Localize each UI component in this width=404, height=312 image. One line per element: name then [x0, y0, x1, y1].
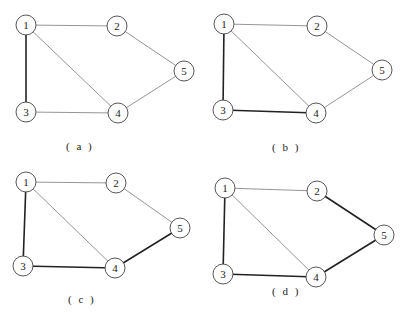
node-5: 5: [170, 218, 190, 238]
node-4: 4: [105, 258, 125, 278]
svg-text:5: 5: [379, 64, 385, 76]
svg-text:1: 1: [23, 19, 29, 31]
panel-a: 12345 ( a ): [0, 0, 202, 156]
edge-4-5-selected: [115, 228, 180, 268]
svg-text:2: 2: [314, 185, 320, 197]
node-2: 2: [307, 16, 327, 36]
node-2: 2: [106, 173, 126, 193]
graph-b: 12345: [202, 0, 404, 156]
svg-text:4: 4: [112, 262, 118, 274]
node-1: 1: [215, 178, 235, 198]
node-5: 5: [374, 225, 394, 245]
edge-1-4: [225, 188, 316, 277]
panel-d: 12345 ( d ): [202, 156, 404, 312]
panel-b: 12345 ( b ): [202, 0, 404, 156]
node-5: 5: [174, 61, 194, 81]
svg-text:3: 3: [20, 260, 26, 272]
caption-d: ( d ): [272, 285, 300, 297]
edge-2-5: [317, 26, 382, 70]
edge-1-4: [26, 182, 115, 268]
edge-1-2: [26, 25, 117, 26]
node-3: 3: [213, 100, 233, 120]
node-3: 3: [213, 264, 233, 284]
svg-text:4: 4: [313, 271, 319, 283]
svg-text:4: 4: [313, 107, 319, 119]
caption-a: ( a ): [66, 140, 94, 152]
edge-1-4: [26, 25, 118, 113]
edge-1-4: [224, 24, 316, 113]
graph-c: 12345: [0, 156, 202, 312]
panel-c: 12345 ( c ): [0, 156, 202, 312]
graph-a: 12345: [0, 0, 202, 156]
edge-1-3-selected: [223, 24, 224, 110]
edge-1-2: [26, 182, 116, 183]
node-5: 5: [372, 60, 392, 80]
svg-text:3: 3: [23, 106, 29, 118]
svg-text:5: 5: [181, 65, 187, 77]
node-1: 1: [16, 15, 36, 35]
svg-text:3: 3: [220, 104, 226, 116]
node-2: 2: [307, 181, 327, 201]
edge-3-4: [26, 112, 118, 113]
node-4: 4: [306, 267, 326, 287]
caption-b: ( b ): [272, 141, 300, 153]
edge-1-3-selected: [223, 188, 225, 274]
node-1: 1: [214, 14, 234, 34]
svg-text:2: 2: [314, 20, 320, 32]
node-3: 3: [16, 102, 36, 122]
graph-d: 12345: [202, 156, 404, 312]
node-4: 4: [306, 103, 326, 123]
edge-1-3-selected: [23, 182, 26, 266]
svg-text:1: 1: [221, 18, 227, 30]
edge-2-5: [117, 26, 184, 71]
edge-2-5-selected: [317, 191, 384, 235]
edge-2-5: [116, 183, 180, 228]
node-3: 3: [13, 256, 33, 276]
edge-3-4-selected: [223, 274, 316, 277]
edge-4-5-selected: [316, 235, 384, 277]
edge-3-4-selected: [23, 266, 115, 268]
svg-text:1: 1: [23, 176, 29, 188]
node-1: 1: [16, 172, 36, 192]
node-2: 2: [107, 16, 127, 36]
edge-4-5: [316, 70, 382, 113]
caption-c: ( c ): [68, 293, 96, 305]
edge-1-2: [225, 188, 317, 191]
svg-text:3: 3: [220, 268, 226, 280]
svg-text:1: 1: [222, 182, 228, 194]
edge-4-5: [118, 71, 184, 113]
svg-text:2: 2: [113, 177, 119, 189]
node-4: 4: [108, 103, 128, 123]
svg-text:5: 5: [177, 222, 183, 234]
svg-text:5: 5: [381, 229, 387, 241]
svg-text:2: 2: [114, 20, 120, 32]
edge-1-2: [224, 24, 317, 26]
edge-3-4-selected: [223, 110, 316, 113]
svg-text:4: 4: [115, 107, 121, 119]
